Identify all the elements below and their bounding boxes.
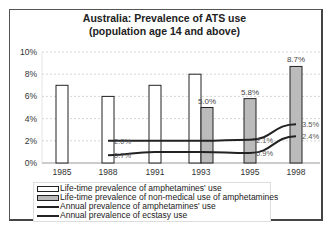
bar [56,85,68,163]
x-tick-label: 1985 [53,167,72,177]
x-tick-label: 1991 [146,167,165,177]
bar-value-label: 8.7% [287,55,305,64]
y-tick-label: 2% [25,136,38,146]
y-tick-label: 0% [25,158,38,168]
bar [201,108,213,164]
legend-item-annual-ecstasy: Annual prevalence of ecstasy use [37,211,187,220]
line-value-label: 2.1% [256,136,273,145]
bar [102,96,114,163]
legend: Life-time prevalence of amphetamines' us… [33,182,271,222]
x-tick-label: 1998 [287,167,306,177]
y-tick-label: 4% [25,114,38,124]
bar [290,66,302,163]
line-value-label: 2.4% [302,132,319,141]
line-value-label: 0.7% [114,151,131,160]
line-value-label: 2.0% [114,137,131,146]
x-tick-label: 1995 [241,167,260,177]
y-tick-label: 6% [25,91,38,101]
open-bar-swatch-icon [37,186,59,192]
x-tick-label: 1993 [192,167,211,177]
bar-value-label: 5.8% [241,88,259,97]
grey-bar-swatch-icon [37,195,59,201]
line-value-label: 0.9% [256,149,273,158]
y-tick-label: 10% [20,47,37,57]
line-value-label: 3.5% [302,120,319,129]
line-swatch-icon [37,215,59,217]
bar [189,74,201,163]
bar-value-label: 5.0% [198,97,216,106]
line-swatch-icon [37,206,59,208]
y-tick-label: 8% [25,69,38,79]
x-tick-label: 1988 [99,167,118,177]
